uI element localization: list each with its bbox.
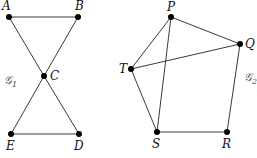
vertex-label-c: C [50,69,59,83]
edge-ac [9,17,44,76]
vertex-t [128,66,134,72]
edge-rq [227,44,240,132]
labels-layer: ABCED𝒢1PQTSR𝒢2 [1,0,257,153]
vertex-b [75,14,81,20]
graph-subscript-g2: 2 [251,77,257,86]
edge-cd [44,76,79,134]
vertex-a [6,14,12,20]
vertex-label-q: Q [245,37,255,51]
vertex-label-t: T [119,62,128,76]
vertex-label-a: A [1,0,11,13]
vertex-label-d: D [73,139,84,153]
vertex-label-p: P [166,0,176,14]
edge-bc [44,17,78,76]
edge-ps [157,17,171,132]
edge-ts [131,69,157,132]
vertex-c [41,73,47,79]
graph-label-g2: 𝒢2 [244,71,257,86]
graph-subscript-g1: 1 [12,80,17,89]
vertex-e [8,131,14,137]
vertex-label-e: E [5,139,15,153]
graph-diagram: ABCED𝒢1PQTSR𝒢2 [0,0,257,158]
vertex-r [224,129,230,135]
graph-label-g1: 𝒢1 [4,74,17,89]
vertex-p [168,14,174,20]
vertex-s [154,129,160,135]
edge-pq [171,17,240,44]
vertex-label-s: S [152,137,160,151]
vertex-label-b: B [74,0,84,13]
vertex-q [237,41,243,47]
vertex-label-r: R [221,137,231,151]
vertex-d [76,131,82,137]
